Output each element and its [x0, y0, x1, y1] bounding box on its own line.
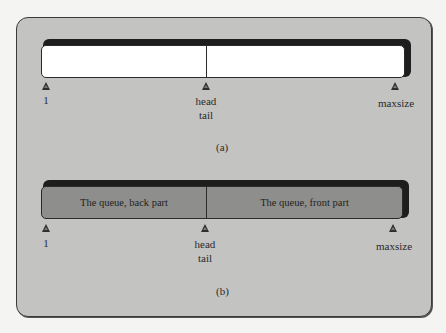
marker-maxsize-icon: [391, 82, 399, 90]
marker-start-icon: [42, 82, 50, 90]
label-maxsize: maxsize: [366, 240, 422, 253]
marker-maxsize-icon: [389, 224, 397, 232]
marker-head-tail-icon: [201, 224, 209, 232]
caption-a: (a): [216, 141, 228, 153]
segment-back-part: The queue, back part: [42, 187, 206, 218]
array-bar-empty: [41, 45, 405, 78]
caption-b: (b): [216, 285, 229, 297]
label-tail: tail: [185, 252, 225, 265]
segment-front-part: The queue, front part: [207, 187, 402, 218]
head-tail-divider: [206, 46, 207, 77]
label-start: 1: [40, 237, 52, 250]
label-head: head: [185, 238, 225, 251]
marker-start-icon: [42, 224, 50, 232]
label-tail: tail: [186, 109, 226, 122]
marker-head-tail-icon: [202, 82, 210, 90]
queue-bar: The queue, back part The queue, front pa…: [41, 186, 403, 219]
label-head: head: [186, 95, 226, 108]
label-maxsize: maxsize: [368, 97, 424, 110]
label-start: 1: [40, 94, 52, 107]
